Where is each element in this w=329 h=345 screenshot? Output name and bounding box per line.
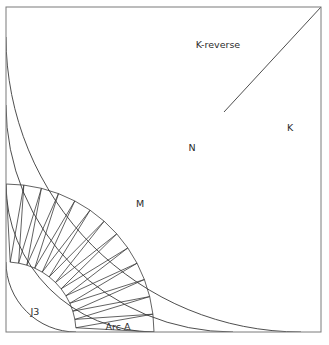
triangle-outer-chord	[58, 194, 74, 201]
triangle-outer-chord	[128, 248, 137, 263]
arc-band-diagram: J3Arc AMNKK-reverse	[0, 0, 329, 345]
clipped-geometry	[6, 7, 321, 332]
triangle-outer-chord	[90, 210, 104, 221]
triangle-outer-chord	[117, 234, 128, 248]
diagram-frame	[6, 7, 321, 332]
triangle-outer-chord	[104, 221, 117, 234]
triangle-edge	[19, 185, 24, 263]
triangle-outer-chord	[6, 184, 24, 185]
region-label-n: N	[188, 142, 195, 153]
arc-a-triangle-strip	[6, 184, 154, 332]
triangle-outer-chord	[150, 297, 153, 315]
region-label-k-reverse: K-reverse	[196, 39, 241, 50]
region-label-j3: J3	[30, 306, 40, 317]
triangle-outer-chord	[75, 201, 90, 210]
triangle-inner-chord	[73, 311, 75, 319]
triangle-inner-chord	[49, 277, 55, 283]
triangle-inner-chord	[66, 296, 70, 303]
region-label-m: M	[136, 198, 144, 209]
region-label-arc-a: Arc A	[106, 321, 131, 332]
region-label-k: K	[287, 122, 294, 133]
triangle-inner-chord	[55, 283, 61, 289]
triangle-edge	[75, 297, 150, 320]
triangle-inner-chord	[35, 268, 42, 272]
triangle-outer-chord	[137, 263, 144, 279]
triangle-inner-chord	[19, 263, 27, 265]
triangle-inner-chord	[10, 262, 18, 263]
triangle-edge	[55, 234, 116, 283]
diagram-canvas: J3Arc AMNKK-reverse	[0, 0, 329, 345]
triangle-inner-chord	[61, 289, 66, 296]
triangle-edge	[55, 221, 104, 282]
inner-j3-arc	[6, 262, 76, 332]
triangle-edge	[6, 184, 10, 262]
n-k-boundary-arc	[6, 37, 301, 332]
triangle-outer-chord	[153, 314, 154, 332]
triangle-edge	[75, 314, 153, 319]
k-divider-ray	[224, 7, 321, 112]
m-n-boundary-arc	[6, 105, 233, 332]
triangle-outer-chord	[24, 185, 42, 188]
triangle-inner-chord	[75, 319, 76, 327]
triangle-edge	[19, 188, 42, 263]
triangle-inner-chord	[42, 272, 49, 277]
